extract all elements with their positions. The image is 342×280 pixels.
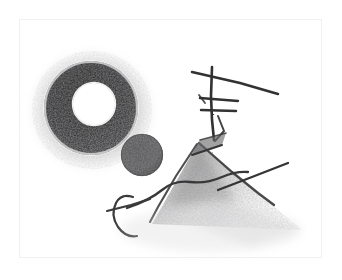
antenna-crossbar-upper [200,98,238,101]
hook-tail-stroke [107,199,150,211]
artboard: Pencil sketch: ring, sphere, antenna and… [0,0,342,280]
antenna-top-diagonal-stroke [192,72,278,94]
sketch-canvas [0,0,342,280]
antenna-crossbar-lower [201,110,236,111]
antenna-group [192,67,278,141]
small-sphere [121,134,163,176]
lower-haze [120,208,300,252]
